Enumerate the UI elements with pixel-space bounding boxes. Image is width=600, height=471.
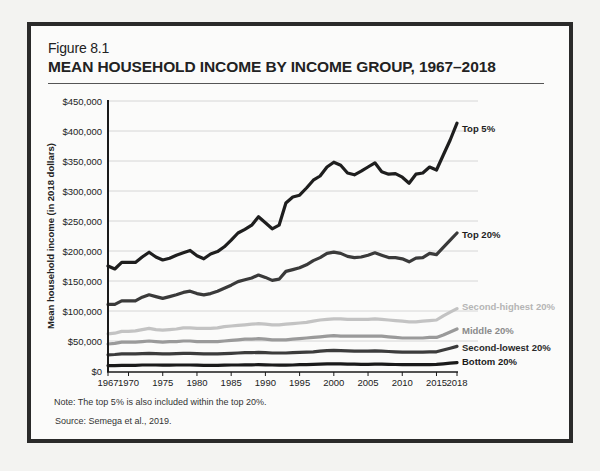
y-tick-label: $0 <box>91 366 102 377</box>
x-tick-label: 2015 <box>426 377 447 388</box>
y-tick-label: $150,000 <box>62 276 102 287</box>
y-axis-ticks: $0$50,000$100,000$150,000$200,000$250,00… <box>62 96 102 377</box>
series-line <box>108 346 457 354</box>
series-label: Top 20% <box>462 229 501 240</box>
y-tick-label: $400,000 <box>62 126 102 137</box>
series-line <box>108 233 457 304</box>
x-tick-label: 2018 <box>446 377 467 388</box>
y-tick-label: $350,000 <box>62 156 102 167</box>
y-tick-label: $200,000 <box>62 246 102 257</box>
series-label: Bottom 20% <box>462 356 517 367</box>
x-tick-label: 1990 <box>255 377 276 388</box>
y-tick-label: $50,000 <box>68 336 102 347</box>
series-label: Second-lowest 20% <box>462 342 551 353</box>
y-tick-label: $300,000 <box>62 186 102 197</box>
x-tick-label: 2010 <box>392 377 413 388</box>
gridlines <box>108 101 478 341</box>
x-tick-label: 1970 <box>118 377 139 388</box>
series-labels: Top 5%Top 20%Second-highest 20%Middle 20… <box>462 123 555 367</box>
series-line <box>108 123 457 269</box>
x-tick-label: 1967 <box>97 377 118 388</box>
series-label: Top 5% <box>462 123 496 134</box>
series-line <box>108 363 457 366</box>
y-tick-label: $450,000 <box>62 96 102 107</box>
data-series <box>108 123 457 365</box>
x-tick-label: 1995 <box>289 377 310 388</box>
line-chart: $0$50,000$100,000$150,000$200,000$250,00… <box>0 0 600 471</box>
y-tick-label: $250,000 <box>62 216 102 227</box>
series-label: Second-highest 20% <box>462 301 555 312</box>
x-tick-label: 2000 <box>323 377 344 388</box>
series-label: Middle 20% <box>462 325 514 336</box>
x-tick-label: 1985 <box>221 377 242 388</box>
y-axis-label: Mean household income (in 2018 dollars) <box>45 143 56 329</box>
x-tick-label: 2005 <box>357 377 378 388</box>
x-tick-label: 1980 <box>186 377 207 388</box>
y-tick-label: $100,000 <box>62 306 102 317</box>
x-axis-ticks: 1967197019751980198519901995200020052010… <box>97 372 467 388</box>
x-tick-label: 1975 <box>152 377 173 388</box>
series-line <box>108 309 457 334</box>
